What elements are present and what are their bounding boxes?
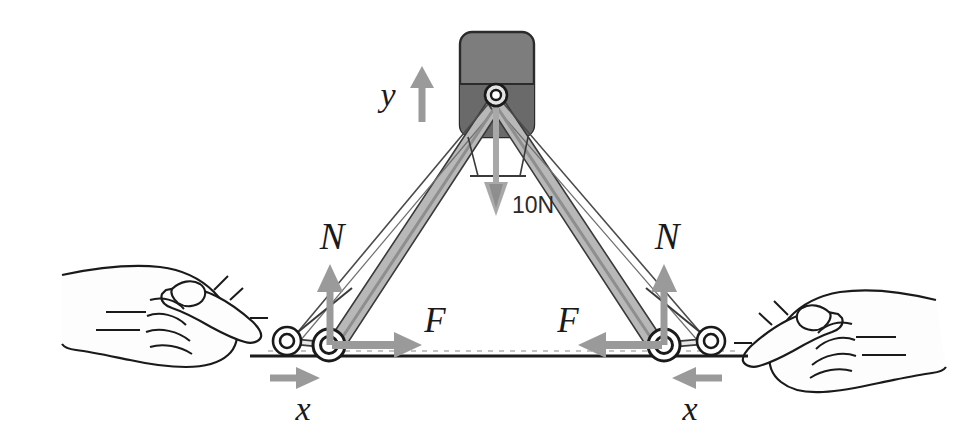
friction-right-label: F [556, 301, 579, 340]
axis-x-left-label: x [294, 390, 310, 427]
axis-y-label: y [377, 76, 396, 113]
axis-x-right-label: x [681, 390, 697, 427]
diagram-svg: y 10N N N F F x x [0, 0, 977, 447]
friction-left-label: F [423, 301, 446, 340]
normal-right-label: N [654, 216, 682, 257]
roller-outer-right-inner-ring [704, 334, 718, 348]
normal-left-label: N [319, 216, 347, 257]
hand-right-thumb [797, 305, 831, 330]
weight-label: 10N [512, 192, 554, 218]
pivot-top-inner-ring [491, 90, 501, 100]
roller-outer-left-inner-ring [280, 334, 294, 348]
hand-left-thumb [171, 281, 205, 306]
physics-diagram-canvas: y 10N N N F F x x [0, 0, 977, 447]
